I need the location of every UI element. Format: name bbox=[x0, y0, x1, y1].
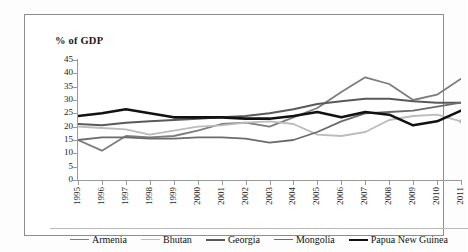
x-axis-tick-label: 2005 bbox=[312, 187, 321, 205]
legend-item-armenia[interactable]: Armenia bbox=[70, 234, 127, 245]
chart-frame: % of GDP 051015202530354045 199519961997… bbox=[24, 14, 444, 236]
x-axis-tick-mark bbox=[389, 181, 390, 185]
x-axis-tick-mark bbox=[365, 181, 366, 185]
y-axis-tick-label: 45 bbox=[53, 55, 73, 64]
x-axis-tick-label: 1997 bbox=[121, 187, 130, 205]
x-axis-tick-label: 2008 bbox=[384, 187, 393, 205]
x-axis-tick-mark bbox=[174, 181, 175, 185]
x-axis-tick-label: 1999 bbox=[169, 187, 178, 205]
x-axis-tick-label: 2007 bbox=[360, 187, 369, 205]
y-axis-tick-label: 15 bbox=[53, 135, 73, 144]
legend-label: Georgia bbox=[228, 234, 260, 245]
x-axis-tick-mark bbox=[461, 181, 462, 185]
x-axis-tick-mark bbox=[317, 181, 318, 185]
x-axis-tick-mark bbox=[437, 181, 438, 185]
x-axis-tick-mark bbox=[78, 181, 79, 185]
legend-label: Armenia bbox=[92, 234, 127, 245]
legend-item-bhutan[interactable]: Bhutan bbox=[141, 234, 192, 245]
x-axis-tick-mark bbox=[222, 181, 223, 185]
chart-legend: ArmeniaBhutanGeorgiaMongoliaPapua New Gu… bbox=[50, 228, 468, 248]
legend-swatch-icon bbox=[206, 239, 225, 241]
x-axis-tick-label: 2004 bbox=[288, 187, 297, 205]
line-series-svg bbox=[78, 60, 461, 180]
y-axis-tick-label: 35 bbox=[53, 82, 73, 91]
legend-item-georgia[interactable]: Georgia bbox=[206, 234, 260, 245]
x-axis-tick-mark bbox=[150, 181, 151, 185]
x-axis-tick-label: 2003 bbox=[265, 187, 274, 205]
legend-label: Bhutan bbox=[163, 234, 192, 245]
x-axis-tick-label: 2009 bbox=[408, 187, 417, 205]
plot-area bbox=[78, 60, 461, 180]
x-axis-tick-label: 1996 bbox=[97, 187, 106, 205]
legend-swatch-icon bbox=[274, 239, 293, 240]
legend-label: Mongolia bbox=[296, 234, 335, 245]
x-axis-tick-mark bbox=[413, 181, 414, 185]
legend-swatch-icon bbox=[349, 239, 368, 241]
x-axis-tick-mark bbox=[270, 181, 271, 185]
x-axis-tick-label: 2010 bbox=[432, 187, 441, 205]
x-axis-tick-label: 2001 bbox=[217, 187, 226, 205]
y-axis-tick-label: 10 bbox=[53, 148, 73, 157]
x-axis-tick-label: 2000 bbox=[193, 187, 202, 205]
y-axis-tick-label: 0 bbox=[53, 175, 73, 184]
legend-item-papua-new-guinea[interactable]: Papua New Guinea bbox=[349, 234, 448, 245]
x-axis-tick-label: 1995 bbox=[73, 187, 82, 205]
x-axis-tick-mark bbox=[246, 181, 247, 185]
x-axis-tick-mark bbox=[293, 181, 294, 185]
legend-label: Papua New Guinea bbox=[371, 234, 448, 245]
x-axis-tick-label: 2011 bbox=[456, 187, 465, 205]
x-axis-tick-mark bbox=[102, 181, 103, 185]
x-axis-tick-mark bbox=[198, 181, 199, 185]
y-axis-tick-label: 20 bbox=[53, 122, 73, 131]
legend-swatch-icon bbox=[70, 239, 89, 240]
x-axis-tick-label: 2006 bbox=[336, 187, 345, 205]
y-axis-tick-labels: 051015202530354045 bbox=[51, 15, 73, 252]
x-axis-tick-mark bbox=[341, 181, 342, 185]
series-endpoint-marker-bhutan bbox=[459, 119, 461, 123]
y-axis-tick-label: 25 bbox=[53, 108, 73, 117]
legend-swatch-icon bbox=[141, 239, 160, 240]
legend-item-mongolia[interactable]: Mongolia bbox=[274, 234, 335, 245]
y-axis-tick-label: 30 bbox=[53, 95, 73, 104]
x-axis-tick-label: 1998 bbox=[145, 187, 154, 205]
x-axis-tick-mark bbox=[126, 181, 127, 185]
x-axis-tick-label: 2002 bbox=[241, 187, 250, 205]
y-axis-tick-label: 5 bbox=[53, 162, 73, 171]
y-axis-tick-label: 40 bbox=[53, 68, 73, 77]
